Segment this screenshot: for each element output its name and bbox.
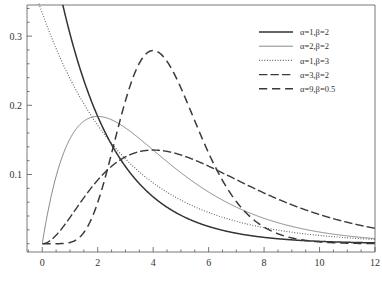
x-tick-label: 0 <box>40 257 45 268</box>
x-tick-label: 2 <box>95 257 100 268</box>
legend-label-a2b2: α=2,β=2 <box>300 41 329 51</box>
legend-label-a9b05: α=9,β=0.5 <box>300 84 335 94</box>
legend-label-a1b2: α=1,β=2 <box>300 27 329 37</box>
legend-label-a3b2: α=3,β=2 <box>300 70 329 80</box>
y-tick-label: 0.1 <box>10 169 23 180</box>
x-tick-label: 6 <box>206 257 211 268</box>
y-tick-label: 0.2 <box>10 100 23 111</box>
x-tick-label: 10 <box>315 257 325 268</box>
legend-label-a1b3: α=1,β=3 <box>300 56 329 66</box>
x-tick-label: 4 <box>151 257 156 268</box>
chart-canvas: 0246810120.10.20.3 α=1,β=2α=2,β=2α=1,β=3… <box>0 0 382 282</box>
x-tick-label: 12 <box>370 257 380 268</box>
y-tick-label: 0.3 <box>10 31 23 42</box>
gamma-pdf-chart: 0246810120.10.20.3 α=1,β=2α=2,β=2α=1,β=3… <box>0 0 382 282</box>
x-tick-label: 8 <box>262 257 267 268</box>
